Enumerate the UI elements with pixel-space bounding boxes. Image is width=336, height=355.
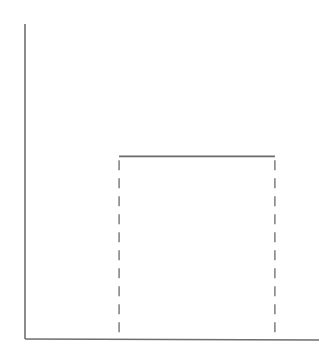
pulse-plot — [0, 0, 336, 355]
x-axis — [25, 339, 319, 340]
vertical-guides — [119, 160, 275, 339]
